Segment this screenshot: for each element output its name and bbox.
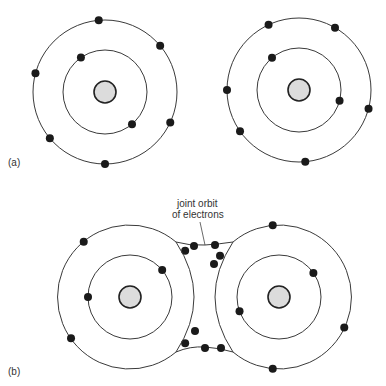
- nucleus: [94, 81, 116, 103]
- atom-diagram: (a) joint orbit of electrons (b): [0, 0, 386, 386]
- outer-electron: [340, 323, 348, 331]
- outer-electron: [269, 365, 277, 373]
- outer-electron: [166, 118, 174, 126]
- outer-electron: [331, 24, 339, 32]
- inner-electron: [158, 266, 166, 274]
- outer-electron: [269, 221, 277, 229]
- outer-electron: [223, 86, 231, 94]
- inner-electron: [236, 307, 244, 315]
- shared-electron: [190, 242, 198, 250]
- inner-electron: [336, 97, 344, 105]
- inner-electron: [268, 54, 276, 62]
- outer-electron: [95, 16, 103, 24]
- atom-b-right: [216, 221, 351, 372]
- joint-orbit: [176, 241, 233, 352]
- atom-b-left: [58, 225, 190, 369]
- atom-a-left: [31, 16, 177, 168]
- outer-electron: [156, 42, 164, 50]
- panel-b-label: (b): [8, 366, 20, 377]
- panel-a-label: (a): [8, 157, 20, 168]
- atom-a-right: [223, 18, 373, 166]
- outer-electron: [236, 127, 244, 135]
- outer-electron: [101, 160, 109, 168]
- shared-electron: [217, 344, 225, 352]
- outer-electron: [365, 105, 373, 113]
- shared-electron: [201, 344, 209, 352]
- nucleus: [288, 79, 310, 101]
- inner-electron: [84, 293, 92, 301]
- shared-electron: [210, 260, 218, 268]
- inner-electron: [77, 54, 85, 62]
- outer-electron: [46, 134, 54, 142]
- outer-electron: [265, 21, 273, 29]
- inner-electron: [309, 269, 317, 277]
- outer-electron: [67, 334, 75, 342]
- inner-electron: [128, 120, 136, 128]
- shared-electron: [191, 327, 199, 335]
- outer-orbit: [58, 225, 176, 369]
- nucleus: [119, 286, 141, 308]
- annotation-line-2: of electrons: [172, 209, 224, 220]
- outer-electron: [301, 158, 309, 166]
- annotation-line-1: joint orbit: [176, 198, 218, 209]
- outer-electron: [216, 252, 224, 260]
- outer-electron: [80, 238, 88, 246]
- annotation-leader-line: [200, 222, 205, 245]
- outer-electron: [31, 69, 39, 77]
- shared-electron: [211, 241, 219, 249]
- outer-orbit: [233, 225, 351, 369]
- nucleus: [268, 286, 290, 308]
